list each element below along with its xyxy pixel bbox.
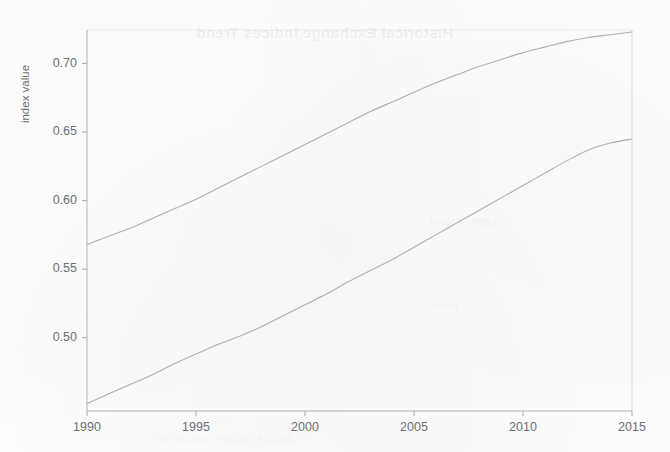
series-line-0 (87, 32, 632, 244)
plot-canvas (0, 0, 670, 452)
series-line-1 (87, 139, 632, 404)
y-tick-label: 0.60 (29, 193, 77, 207)
x-tick-label: 2000 (275, 420, 335, 434)
x-tick-label: 2015 (602, 420, 662, 434)
x-tick-label: 2005 (384, 420, 444, 434)
x-tick-label: 2010 (493, 420, 553, 434)
y-tick-label: 0.70 (29, 56, 77, 70)
y-tick-label: 0.50 (29, 330, 77, 344)
x-tick-label: 1990 (57, 420, 117, 434)
y-tick-label: 0.55 (29, 261, 77, 275)
x-tick-label: 1995 (166, 420, 226, 434)
y-tick-label: 0.65 (29, 124, 77, 138)
series-group (87, 32, 632, 403)
chart-figure: Historical Exchange Indices Trend upper … (0, 0, 670, 452)
axes-group (82, 30, 632, 416)
